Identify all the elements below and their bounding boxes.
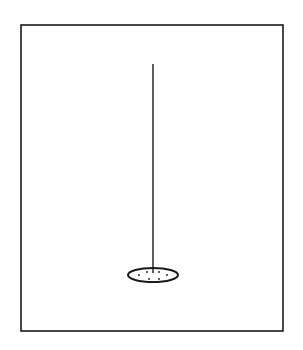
dot	[166, 274, 168, 276]
picture-frame	[21, 25, 283, 331]
dot	[158, 271, 160, 273]
dot	[138, 274, 140, 276]
diagram-canvas	[0, 0, 303, 350]
dot	[158, 278, 160, 280]
dot	[146, 271, 148, 273]
dot	[148, 278, 150, 280]
